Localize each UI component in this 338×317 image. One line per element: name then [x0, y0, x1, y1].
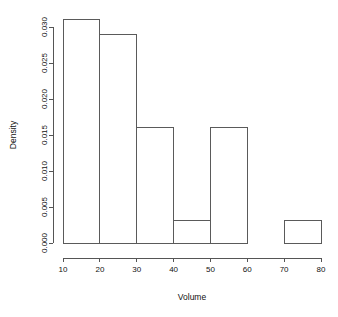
histogram-bar	[210, 127, 247, 243]
x-axis-tick-label: 50	[206, 265, 215, 274]
x-axis-tick-label: 40	[169, 265, 178, 274]
x-axis-title: Volume	[178, 292, 207, 302]
y-axis-tick-label: 0.010	[40, 160, 49, 181]
histogram-bar	[284, 220, 321, 243]
histogram-bar	[174, 220, 211, 243]
y-axis-tick-label: 0.000	[40, 232, 49, 253]
chart-canvas: 0.0000.0050.0100.0150.0200.0250.030 1020…	[0, 0, 338, 317]
x-axis-tick-label: 80	[317, 265, 326, 274]
x-axis-tick-label: 30	[132, 265, 141, 274]
x-axis-tick-label: 10	[59, 265, 68, 274]
x-axis-tick-label: 60	[243, 265, 252, 274]
y-axis-title: Density	[8, 120, 18, 149]
histogram-bar	[100, 34, 137, 243]
x-axis-tick-label: 20	[95, 265, 104, 274]
x-axis-tick-label: 70	[280, 265, 289, 274]
y-axis-tick-label: 0.030	[40, 16, 49, 37]
y-axis-tick-label: 0.025	[40, 52, 49, 73]
histogram-plot: 0.0000.0050.0100.0150.0200.0250.030 1020…	[0, 0, 338, 317]
y-axis-tick-label: 0.020	[40, 88, 49, 109]
histogram-bar	[137, 127, 174, 243]
histogram-bar	[63, 19, 100, 243]
y-axis-tick-label: 0.015	[40, 124, 49, 145]
y-axis-tick-label: 0.005	[40, 196, 49, 217]
